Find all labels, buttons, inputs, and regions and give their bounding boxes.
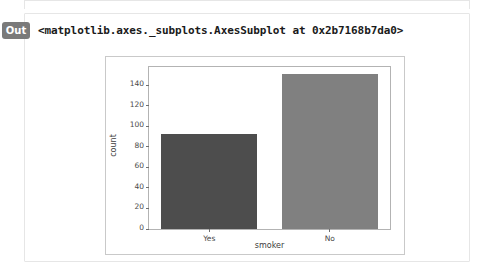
- input-cell-strip[interactable]: [24, 0, 470, 9]
- y-tick-mark: [146, 187, 149, 188]
- matplotlib-figure[interactable]: 020406080100120140 YesNo smoker count: [105, 56, 405, 255]
- y-tick-mark: [146, 126, 149, 127]
- bar-yes: [161, 134, 257, 229]
- x-axis-label: smoker: [148, 241, 391, 250]
- notebook-page: Out <matplotlib.axes._subplots.AxesSubpl…: [0, 0, 492, 274]
- y-tick-label: 20: [134, 202, 144, 211]
- y-tick-mark: [146, 105, 149, 106]
- output-repr-text: <matplotlib.axes._subplots.AxesSubplot a…: [38, 24, 403, 37]
- y-tick-label: 100: [130, 120, 144, 129]
- y-tick-label: 140: [130, 79, 144, 88]
- y-tick-mark: [146, 85, 149, 86]
- y-tick-label: 40: [134, 182, 144, 191]
- y-tick-label: 120: [130, 100, 144, 109]
- x-tick-mark: [329, 229, 330, 232]
- y-tick-mark: [146, 167, 149, 168]
- y-tick-mark: [146, 229, 149, 230]
- bar-no: [282, 74, 378, 229]
- y-tick-mark: [146, 208, 149, 209]
- chart-axes-area: 020406080100120140 YesNo: [148, 66, 391, 230]
- x-tick-mark: [209, 229, 210, 232]
- y-axis-label: count: [109, 134, 118, 157]
- y-tick-label: 60: [134, 161, 144, 170]
- y-tick-label: 0: [139, 223, 144, 232]
- y-tick-mark: [146, 146, 149, 147]
- out-prompt-badge: Out: [2, 22, 30, 39]
- y-tick-label: 80: [134, 141, 144, 150]
